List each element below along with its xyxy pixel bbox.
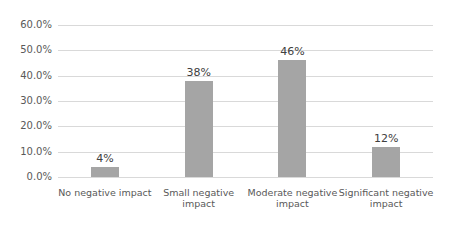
gridline [58, 126, 433, 127]
x-category-label: No negative impact [55, 187, 155, 198]
data-label: 12% [356, 133, 416, 145]
y-tick-label: 20.0% [0, 120, 52, 132]
data-label: 46% [262, 46, 322, 58]
gridline [58, 101, 433, 102]
bar-chart: 60.0%50.0%40.0%30.0%20.0%10.0%0.0% 4%38%… [0, 0, 454, 227]
x-category-label: Significant negative impact [336, 187, 436, 209]
y-tick-label: 0.0% [0, 171, 52, 183]
bar [91, 167, 119, 177]
gridline [58, 76, 433, 77]
y-tick-label: 10.0% [0, 146, 52, 158]
y-tick-label: 30.0% [0, 95, 52, 107]
data-label: 38% [169, 67, 229, 79]
y-tick-label: 60.0% [0, 19, 52, 31]
bar [185, 81, 213, 177]
data-label: 4% [75, 153, 135, 165]
gridline [58, 177, 433, 178]
x-category-label: Small negative impact [149, 187, 249, 209]
x-category-label: Moderate negative impact [242, 187, 342, 209]
gridline [58, 25, 433, 26]
bar [278, 60, 306, 177]
gridline [58, 50, 433, 51]
y-tick-label: 50.0% [0, 44, 52, 56]
y-tick-label: 40.0% [0, 70, 52, 82]
bar [372, 147, 400, 177]
